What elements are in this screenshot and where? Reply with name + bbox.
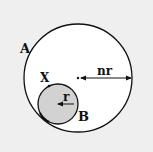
diagram-canvas: A X r B nr — [0, 0, 153, 152]
label-x: X — [40, 71, 50, 85]
label-r: r — [63, 90, 70, 104]
outer-center-dot — [77, 77, 79, 79]
label-nr: nr — [97, 64, 113, 78]
label-b: B — [78, 109, 89, 124]
circles-diagram: A X r B nr — [0, 0, 153, 152]
point-x-dot — [48, 85, 51, 88]
label-a: A — [19, 41, 31, 56]
